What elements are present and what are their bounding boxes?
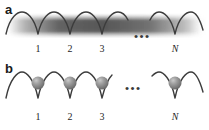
panel-a-site-label-2: 2 [62,44,78,54]
atom-sphere-site-1 [32,77,45,90]
panel-b-ellipsis: ••• [120,84,146,94]
atom-sphere-site-3 [96,77,109,90]
panel-b: b [0,58,209,130]
panel-b-site-label-3: 3 [94,112,110,122]
panel-a-site-label-1: 1 [30,44,46,54]
panel-b-site-label-n: N [167,112,183,122]
atom-sphere-site-n [169,77,182,90]
atom-sphere-site-2 [64,77,77,90]
panel-b-site-label-2: 2 [62,112,78,122]
panel-a-site-label-3: 3 [94,44,110,54]
panel-a-ellipsis: ••• [129,32,155,42]
panel-b-site-label-1: 1 [30,112,46,122]
panel-a-site-label-n: N [167,44,183,54]
panel-a: a [0,0,209,62]
optical-lattice-figure: a [0,0,209,130]
